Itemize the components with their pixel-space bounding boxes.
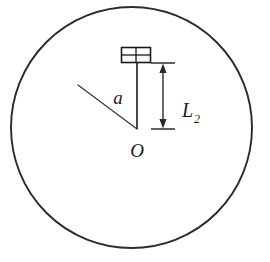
label-distance-base: L xyxy=(181,99,193,121)
disk-circle xyxy=(11,7,252,248)
diagram-canvas: a L 2 O xyxy=(0,0,270,262)
label-radius-a: a xyxy=(113,87,123,108)
radius-line-a xyxy=(78,85,137,129)
dimension-arrow-l2 xyxy=(151,63,175,129)
physics-diagram-figure: a L 2 O xyxy=(0,0,270,262)
mass-block-icon xyxy=(122,48,151,63)
label-distance-l2: L 2 xyxy=(181,99,200,126)
label-distance-subscript: 2 xyxy=(194,112,200,126)
label-center-o: O xyxy=(130,140,144,161)
